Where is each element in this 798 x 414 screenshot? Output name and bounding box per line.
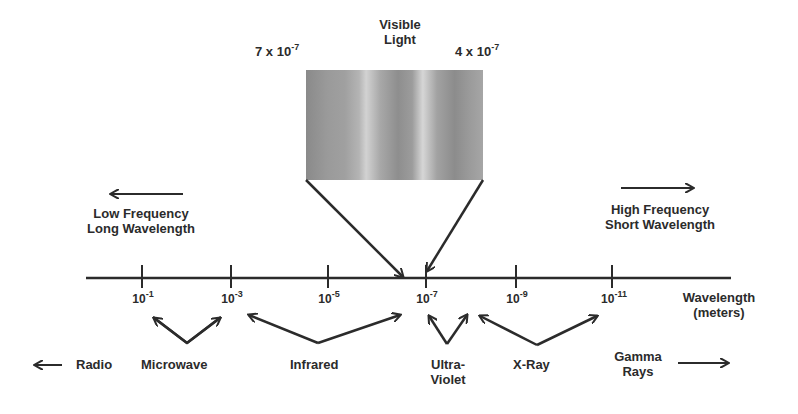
ultraviolet-range (429, 316, 447, 344)
tick-label-3: 10-3 (216, 292, 248, 307)
low-frequency-label: Low Frequency Long Wavelength (76, 206, 206, 236)
infrared-range (249, 315, 318, 343)
axis-label: Wavelength (meters) (674, 290, 764, 320)
high-frequency-label: High Frequency Short Wavelength (595, 202, 725, 232)
visible-right-arrow (427, 180, 483, 271)
band-xray-label: X-Ray (513, 357, 550, 372)
tick-label-9: 10-9 (501, 292, 533, 307)
band-microwave-label: Microwave (141, 357, 207, 372)
microwave-range (153, 317, 221, 343)
band-gamma-label: Gamma Rays (608, 349, 668, 379)
tick-label-5: 10-5 (313, 292, 345, 307)
band-infrared-label: Infrared (290, 357, 338, 372)
tick-label-7: 10-7 (411, 292, 443, 307)
tick-label-1: 10-1 (127, 292, 159, 307)
tick-label-11: 10-11 (595, 292, 633, 307)
band-ultraviolet-label: Ultra- Violet (428, 357, 468, 387)
band-radio-label: Radio (76, 357, 112, 372)
visible-left-arrow (306, 180, 403, 277)
xray-range (480, 316, 537, 345)
